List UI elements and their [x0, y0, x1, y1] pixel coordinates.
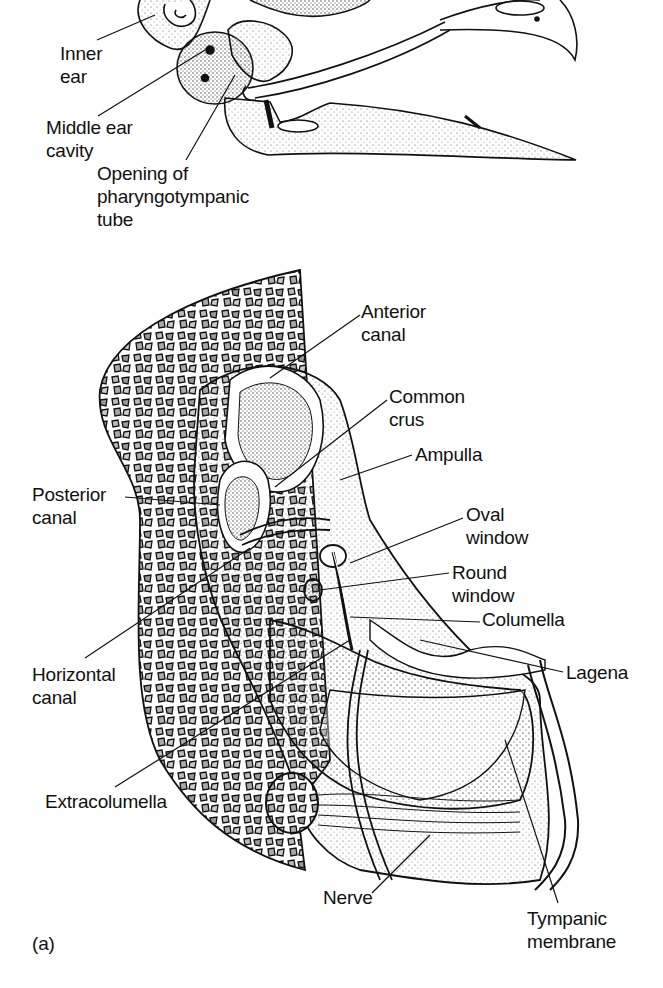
skull-drawing — [138, 0, 577, 160]
label-posterior-canal: Posterior canal — [32, 483, 106, 529]
label-tympanic-membrane: Tympanic membrane — [527, 907, 616, 953]
label-pharyngotympanic-opening: Opening of pharyngotympanic tube — [97, 162, 249, 231]
label-lagena: Lagena — [566, 661, 628, 684]
label-oval-window: Oval window — [466, 503, 528, 549]
label-anterior-canal: Anterior canal — [361, 300, 426, 346]
label-extracolumella: Extracolumella — [45, 790, 167, 813]
label-round-window: Round window — [452, 561, 514, 607]
label-common-crus: Common crus — [389, 385, 465, 431]
panel-label: (a) — [32, 932, 55, 955]
label-horizontal-canal: Horizontal canal — [32, 663, 116, 709]
label-middle-ear-cavity: Middle ear cavity — [46, 116, 133, 162]
label-ampulla: Ampulla — [415, 443, 482, 466]
label-columella: Columella — [482, 608, 565, 631]
label-inner-ear: Inner ear — [60, 42, 102, 88]
label-nerve: Nerve — [323, 886, 373, 909]
